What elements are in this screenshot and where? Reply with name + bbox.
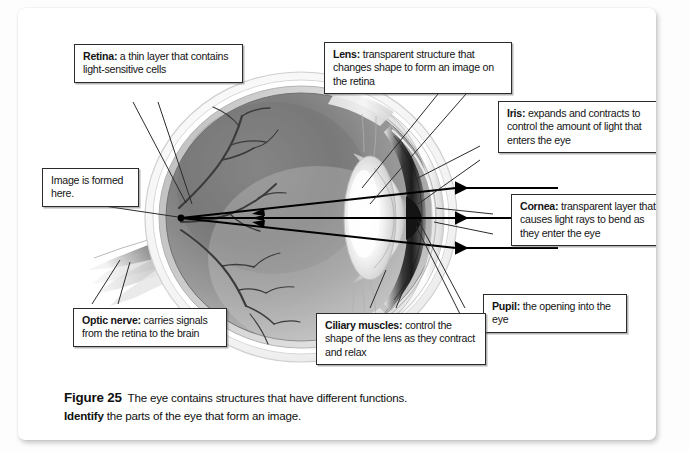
callout-retina: Retina: a thin layer that contains light… [74,44,243,83]
caption-task-text: the parts of the eye that form an image. [107,409,301,422]
callout-iris-term: Iris: [507,107,525,119]
image-focus-point [178,215,185,222]
callout-cornea-term: Cornea: [520,200,558,212]
callout-iris-description: expands and contracts to control the amo… [507,107,642,146]
caption-task-verb: Identify [64,409,104,422]
callout-ciliary-muscles: Ciliary muscles: control the shape of th… [316,313,486,365]
caption-line-1: Figure 25 The eye contains structures th… [64,389,584,407]
callout-ciliary-muscles-term: Ciliary muscles: [325,319,402,331]
figure-page: Retina: a thin layer that contains light… [0,0,689,453]
callout-pupil-term: Pupil: [492,300,520,312]
callout-image-formed: Image is formed here. [42,168,139,207]
page-card: Retina: a thin layer that contains light… [18,8,656,440]
callout-cornea: Cornea: transparent layer that causes li… [511,194,656,246]
caption-text: The eye contains structures that have di… [128,391,407,404]
callout-image-formed-description: Image is formed here. [51,174,123,199]
callout-optic-nerve-term: Optic nerve: [82,314,141,326]
callout-pupil: Pupil: the opening into the eye [483,294,627,333]
callout-lens-term: Lens: [333,48,360,60]
callout-lens: Lens: transparent structure that changes… [324,42,512,94]
caption-line-2: Identify the parts of the eye that form … [64,407,584,425]
page-card-inner: Retina: a thin layer that contains light… [18,8,656,440]
figure-number: Figure 25 [64,390,122,405]
callout-optic-nerve: Optic nerve: carries signals from the re… [73,308,227,347]
callout-retina-term: Retina: [83,50,117,62]
figure-caption: Figure 25 The eye contains structures th… [64,389,584,424]
callout-iris: Iris: expands and contracts to control t… [498,101,656,153]
